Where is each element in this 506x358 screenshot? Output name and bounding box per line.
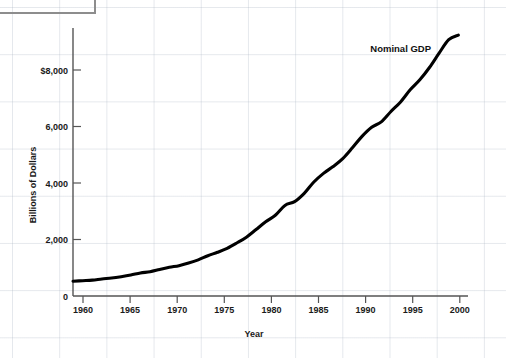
x-tick-label-1995: 1995 xyxy=(403,305,423,315)
x-tick-label-1985: 1985 xyxy=(308,305,328,315)
figure-container: $8,000 6,000 4,000 2,000 0 1960 1965 197… xyxy=(0,0,506,358)
x-tick-label-1970: 1970 xyxy=(167,305,187,315)
x-tick-label-1980: 1980 xyxy=(261,305,281,315)
x-tick-label-1990: 1990 xyxy=(356,305,376,315)
nominal-gdp-line-chart: $8,000 6,000 4,000 2,000 0 1960 1965 197… xyxy=(0,0,506,358)
y-tick-label-4000: 4,000 xyxy=(45,179,68,189)
y-tick-label-8000: $8,000 xyxy=(40,66,68,76)
x-axis-ticks xyxy=(83,296,460,303)
x-tick-label-1960: 1960 xyxy=(73,305,93,315)
x-tick-label-1965: 1965 xyxy=(120,305,140,315)
series-annotation-nominal-gdp: Nominal GDP xyxy=(370,43,431,54)
x-tick-label-2000: 2000 xyxy=(450,305,470,315)
y-axis-ticks xyxy=(73,70,81,240)
nominal-gdp-data-line xyxy=(73,35,458,281)
y-tick-label-0: 0 xyxy=(63,292,68,302)
x-tick-label-1975: 1975 xyxy=(214,305,234,315)
y-tick-label-2000: 2,000 xyxy=(45,235,68,245)
x-axis-title: Year xyxy=(244,329,264,339)
y-axis-title: Billions of Dollars xyxy=(28,147,38,224)
y-tick-label-6000: 6,000 xyxy=(45,122,68,132)
